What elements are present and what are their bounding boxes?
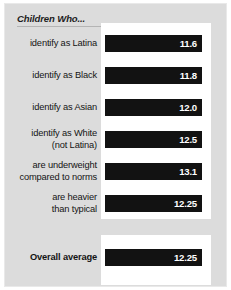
bar: 12.5 xyxy=(105,131,202,148)
bar-label-line1: are underweight xyxy=(13,160,97,172)
bar: 13.1 xyxy=(105,163,202,180)
bar-value: 12.0 xyxy=(179,103,197,113)
bar-label: are underweight compared to norms xyxy=(13,160,97,183)
bar-label: identify as Black xyxy=(13,70,97,81)
bar: 11.8 xyxy=(105,67,202,84)
bar-value: 12.25 xyxy=(174,199,197,209)
bar-label-line2: compared to norms xyxy=(13,172,97,184)
bar-value: 11.8 xyxy=(180,71,197,81)
bar-label: identify as Latina xyxy=(13,38,97,49)
chart-row: identify as Asian 12.0 xyxy=(5,94,211,124)
summary-label: Overall average xyxy=(13,252,97,263)
bar: 12.0 xyxy=(105,99,202,116)
bar-label-line1: identify as Asian xyxy=(13,102,97,113)
chart-figure: Children Who... identify as Latina 11.6 … xyxy=(0,0,231,290)
bar-label-line2: than typical xyxy=(13,204,97,216)
chart-row: are heavier than typical 12.25 xyxy=(5,190,211,220)
summary-bar-value: 12.25 xyxy=(174,253,197,263)
bar-label-line2: (not Latina) xyxy=(13,140,97,152)
bar-label-line1: identify as Latina xyxy=(13,38,97,49)
bar-label: identify as Asian xyxy=(13,102,97,113)
chart-row: identify as Latina 11.6 xyxy=(5,30,211,60)
bar: 12.25 xyxy=(105,195,202,212)
bar-label-line1: identify as Black xyxy=(13,70,97,81)
title-divider xyxy=(17,26,107,27)
bar-label-line1: are heavier xyxy=(13,192,97,204)
chart-row: identify as White (not Latina) 12.5 xyxy=(5,126,211,156)
bar-value: 13.1 xyxy=(179,167,197,177)
summary-label-text: Overall average xyxy=(13,252,97,263)
chart-panel: Children Who... identify as Latina 11.6 … xyxy=(4,3,227,287)
bar-value: 12.5 xyxy=(179,135,197,145)
bar-value: 11.6 xyxy=(180,39,197,49)
bar: 11.6 xyxy=(105,35,202,52)
chart-summary-row: Overall average 12.25 xyxy=(5,244,211,274)
chart-row: identify as Black 11.8 xyxy=(5,62,211,92)
bar-label-line1: identify as White xyxy=(13,128,97,140)
summary-bar: 12.25 xyxy=(105,249,202,266)
chart-row: are underweight compared to norms 13.1 xyxy=(5,158,211,188)
bar-label: are heavier than typical xyxy=(13,192,97,215)
bar-label: identify as White (not Latina) xyxy=(13,128,97,151)
